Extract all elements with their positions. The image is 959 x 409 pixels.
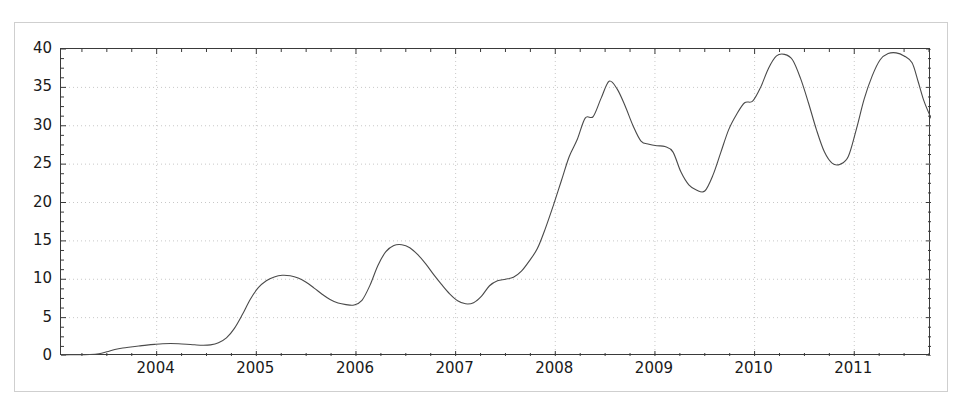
plot-area (60, 48, 930, 355)
screenshot-root: 0510152025303540 20042005200620072008200… (0, 0, 959, 409)
series-layer (61, 53, 931, 355)
plot-canvas (61, 49, 931, 356)
tickmark-layer (61, 49, 931, 356)
data-series-line (61, 53, 931, 355)
grid-layer (61, 49, 931, 356)
